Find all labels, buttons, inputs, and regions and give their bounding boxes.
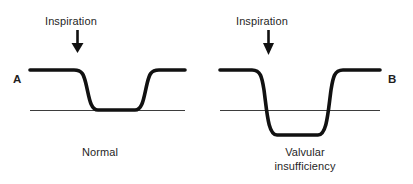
panel-b-graphics <box>220 30 380 135</box>
panel-a-inspiration-arrow <box>72 30 84 53</box>
panel-a-graphics <box>30 30 185 111</box>
panel-a-trace <box>30 70 185 110</box>
panel-b-caption-line-1: Valvular <box>255 146 355 160</box>
panel-b-letter: B <box>388 73 397 85</box>
panel-b-inspiration-arrow <box>263 30 274 55</box>
panel-b-caption-line-2: insufficiency <box>255 160 355 174</box>
panel-b-trace <box>220 70 380 135</box>
figure-root: Inspiration A Normal Inspiration B Valvu… <box>0 0 413 184</box>
panel-a-inspiration-label: Inspiration <box>45 15 97 27</box>
panel-b-inspiration-label: Inspiration <box>236 15 288 27</box>
panel-a-letter: A <box>13 73 22 85</box>
panel-a-caption: Normal <box>50 146 150 160</box>
panel-b-caption: Valvular insufficiency <box>255 146 355 173</box>
